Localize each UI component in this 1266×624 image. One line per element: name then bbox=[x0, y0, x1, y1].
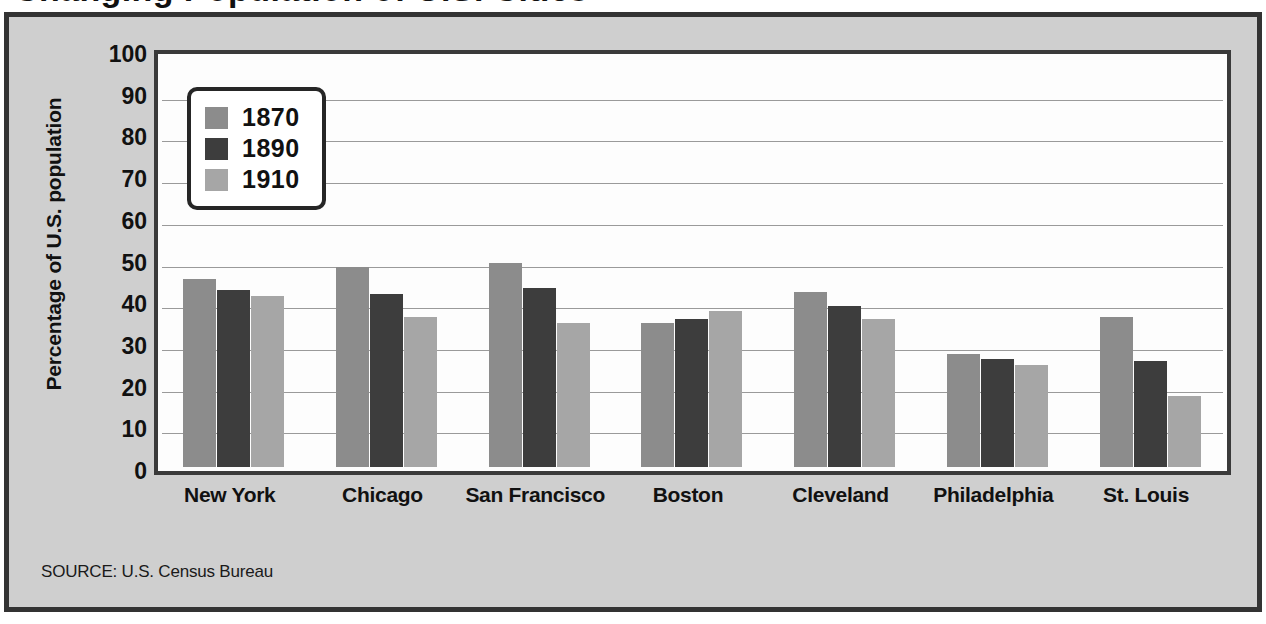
y-tick-label: 0 bbox=[61, 458, 147, 485]
x-axis-tick-labels: New YorkChicagoSan FranciscoBostonClevel… bbox=[154, 483, 1231, 517]
legend-swatch-icon bbox=[205, 138, 228, 160]
bar bbox=[862, 319, 895, 467]
y-tick-label: 100 bbox=[61, 41, 147, 68]
y-tick-label: 40 bbox=[61, 291, 147, 318]
y-tick-label: 90 bbox=[61, 82, 147, 109]
bar bbox=[641, 323, 674, 467]
legend-swatch-icon bbox=[205, 169, 228, 191]
figure-frame: Percentage of U.S. population 0102030405… bbox=[4, 12, 1262, 612]
bar-group bbox=[1100, 58, 1201, 467]
bar-group bbox=[336, 58, 437, 467]
legend-swatch-icon bbox=[205, 107, 228, 129]
chart-title-clipped: Changing Population of U.S. Cities bbox=[0, 0, 1266, 12]
legend-label: 1870 bbox=[242, 103, 300, 132]
bar bbox=[183, 279, 216, 467]
bar bbox=[404, 317, 437, 467]
bar bbox=[217, 290, 250, 467]
bar bbox=[675, 319, 708, 467]
source-note: SOURCE: U.S. Census Bureau bbox=[41, 562, 273, 582]
legend-label: 1890 bbox=[242, 134, 300, 163]
x-tick-label: St. Louis bbox=[1103, 483, 1189, 507]
legend-item: 1890 bbox=[205, 133, 300, 164]
bar bbox=[947, 354, 980, 467]
bar-group bbox=[947, 58, 1048, 467]
chart-title: Changing Population of U.S. Cities bbox=[14, 0, 589, 9]
legend-label: 1910 bbox=[242, 165, 300, 194]
bar bbox=[709, 311, 742, 467]
bar bbox=[794, 292, 827, 467]
bar bbox=[981, 359, 1014, 467]
legend-item: 1870 bbox=[205, 102, 300, 133]
x-tick-label: Cleveland bbox=[792, 483, 889, 507]
y-tick-label: 20 bbox=[61, 374, 147, 401]
bar bbox=[336, 267, 369, 467]
x-tick-label: New York bbox=[184, 483, 275, 507]
y-tick-label: 10 bbox=[61, 416, 147, 443]
bar-group bbox=[489, 58, 590, 467]
bar bbox=[1168, 396, 1201, 467]
bar bbox=[557, 323, 590, 467]
y-axis-tick-labels: 0102030405060708090100 bbox=[61, 50, 147, 475]
legend: 187018901910 bbox=[187, 87, 326, 210]
bar bbox=[489, 263, 522, 467]
y-tick-label: 30 bbox=[61, 332, 147, 359]
x-tick-label: San Francisco bbox=[465, 483, 605, 507]
bar-group bbox=[641, 58, 742, 467]
bar bbox=[523, 288, 556, 467]
y-tick-label: 70 bbox=[61, 166, 147, 193]
bar bbox=[1134, 361, 1167, 467]
y-tick-label: 60 bbox=[61, 207, 147, 234]
bar bbox=[828, 306, 861, 467]
bar-group bbox=[794, 58, 895, 467]
y-tick-label: 80 bbox=[61, 124, 147, 151]
bar bbox=[1015, 365, 1048, 467]
x-tick-label: Chicago bbox=[342, 483, 423, 507]
bar bbox=[1100, 317, 1133, 467]
legend-item: 1910 bbox=[205, 164, 300, 195]
bar bbox=[251, 296, 284, 467]
x-tick-label: Philadelphia bbox=[933, 483, 1053, 507]
chart-figure: Percentage of U.S. population 0102030405… bbox=[0, 0, 1266, 624]
y-tick-label: 50 bbox=[61, 249, 147, 276]
x-tick-label: Boston bbox=[653, 483, 724, 507]
bar bbox=[370, 294, 403, 467]
